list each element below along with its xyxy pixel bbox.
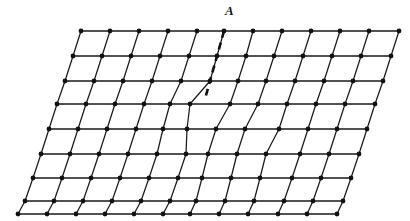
lattice-atom-node	[389, 54, 394, 59]
lattice-atom-node	[100, 54, 105, 59]
lattice-atom-node	[311, 199, 316, 204]
lattice-atom-node	[243, 127, 248, 132]
lattice-atom-node	[108, 29, 113, 34]
lattice-atom-node	[188, 102, 193, 107]
lattice-atom-node	[97, 152, 102, 157]
lattice-atom-node	[60, 176, 65, 181]
lattice-atom-node	[168, 102, 173, 107]
lattice-atom-node	[367, 29, 372, 34]
lattice-atom-node	[76, 127, 81, 132]
lattice-atom-node	[397, 29, 402, 34]
lattice-atom-node	[365, 127, 370, 132]
lattice-atom-node	[161, 127, 166, 132]
lattice-atom-node	[208, 79, 213, 84]
lattice-atom-node	[264, 152, 269, 157]
lattice-atom-node	[92, 79, 97, 84]
lattice-atom-node	[137, 29, 142, 34]
lattice-atom-node	[309, 29, 314, 34]
lattice-atom-node	[322, 79, 327, 84]
lattice-atom-node	[244, 54, 249, 59]
lattice-atom-node	[314, 102, 319, 107]
lattice-atom-node	[327, 152, 332, 157]
lattice-atom-node	[52, 199, 57, 204]
lattice-atom-node	[168, 199, 173, 204]
lattice-atom-node	[39, 152, 44, 157]
lattice-atom-node	[235, 152, 240, 157]
lattice-atom-node	[113, 102, 118, 107]
lattice-atom-node	[351, 79, 356, 84]
lattice-atom-node	[176, 176, 181, 181]
lattice-atom-node	[298, 152, 303, 157]
lattice-atom-node	[166, 29, 171, 34]
lattice-atom-node	[258, 176, 263, 181]
lattice-atom-node	[359, 54, 364, 59]
lattice-atom-node	[74, 212, 79, 217]
lattice-atom-node	[63, 79, 68, 84]
point-label-A: A	[225, 4, 234, 17]
lattice-figure: A	[0, 0, 410, 221]
lattice-atom-node	[301, 54, 306, 59]
lattice-atom-node	[55, 102, 60, 107]
lattice-atom-node	[187, 54, 192, 59]
lattice-svg	[0, 0, 410, 221]
lattice-atom-node	[110, 199, 115, 204]
lattice-atom-node	[194, 199, 199, 204]
lattice-atom-node	[349, 176, 354, 181]
lattice-atom-node	[264, 79, 269, 84]
lattice-atom-node	[285, 102, 290, 107]
lattice-atom-node	[150, 79, 155, 84]
lattice-atom-node	[222, 29, 227, 34]
lattice-atom-node	[134, 127, 139, 132]
lattice-atom-node	[68, 152, 73, 157]
lattice-atom-node	[158, 54, 163, 59]
lattice-atom-node	[223, 199, 228, 204]
lattice-atom-node	[214, 127, 219, 132]
figure-background	[0, 0, 410, 221]
lattice-atom-node	[23, 199, 28, 204]
lattice-atom-node	[306, 127, 311, 132]
lattice-atom-node	[47, 127, 52, 132]
lattice-atom-node	[341, 199, 346, 204]
lattice-atom-node	[282, 199, 287, 204]
lattice-atom-node	[179, 79, 184, 84]
lattice-atom-node	[246, 212, 251, 217]
lattice-atom-node	[185, 127, 190, 132]
lattice-atom-node	[280, 29, 285, 34]
lattice-atom-node	[79, 29, 84, 34]
lattice-atom-node	[89, 176, 94, 181]
lattice-atom-node	[200, 176, 205, 181]
lattice-atom-node	[293, 79, 298, 84]
lattice-atom-node	[319, 176, 324, 181]
lattice-atom-node	[335, 127, 340, 132]
lattice-atom-node	[129, 54, 134, 59]
lattice-atom-node	[71, 54, 76, 59]
lattice-atom-node	[373, 102, 378, 107]
lattice-atom-node	[184, 152, 189, 157]
lattice-atom-node	[31, 176, 36, 181]
lattice-atom-node	[338, 29, 343, 34]
lattice-atom-node	[206, 152, 211, 157]
lattice-atom-node	[147, 176, 152, 181]
lattice-atom-node	[357, 152, 362, 157]
lattice-atom-node	[103, 212, 108, 217]
lattice-atom-node	[139, 199, 144, 204]
lattice-atom-node	[217, 212, 222, 217]
lattice-atom-node	[277, 127, 282, 132]
lattice-atom-node	[305, 212, 310, 217]
lattice-atom-node	[132, 212, 137, 217]
lattice-atom-node	[126, 152, 131, 157]
lattice-atom-node	[188, 212, 193, 217]
lattice-atom-node	[118, 176, 123, 181]
lattice-atom-node	[330, 54, 335, 59]
lattice-atom-node	[276, 212, 281, 217]
lattice-atom-node	[335, 212, 340, 217]
lattice-atom-node	[251, 29, 256, 34]
lattice-atom-node	[229, 176, 234, 181]
lattice-atom-node	[84, 102, 89, 107]
lattice-atom-node	[195, 29, 200, 34]
lattice-atom-node	[228, 102, 233, 107]
lattice-atom-node	[272, 54, 277, 59]
lattice-atom-node	[161, 212, 166, 217]
lattice-atom-node	[155, 152, 160, 157]
lattice-atom-node	[121, 79, 126, 84]
